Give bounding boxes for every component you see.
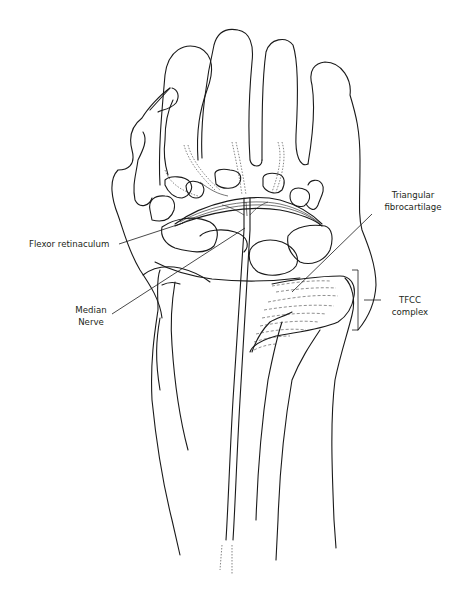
label-median-nerve: Median Nerve	[68, 304, 114, 328]
wrist-anatomy-figure: Flexor retinaculum Median Nerve Triangul…	[0, 0, 469, 598]
flexor-retinaculum-band	[175, 198, 322, 226]
carpal-bones	[143, 169, 332, 282]
label-triangular-line2: fibrocartilage	[370, 201, 456, 213]
label-flexor-retinaculum: Flexor retinaculum	[29, 238, 109, 250]
forearm-bones	[152, 270, 355, 560]
label-tfcc-line1: TFCC	[383, 294, 437, 306]
label-tfcc-complex: TFCC complex	[383, 294, 437, 318]
fingers	[112, 29, 376, 330]
median-nerve	[220, 198, 268, 575]
median-nerve-leader	[112, 228, 245, 314]
triangular-fibrocartilage-leader	[292, 214, 372, 292]
flexor-retinaculum-leader	[119, 223, 183, 244]
label-tfcc-line2: complex	[383, 306, 437, 318]
leader-lines	[112, 214, 381, 330]
label-triangular-line1: Triangular	[370, 189, 456, 201]
label-median-nerve-line2: Nerve	[68, 316, 114, 328]
label-triangular-fibrocartilage: Triangular fibrocartilage	[370, 189, 456, 213]
label-median-nerve-line1: Median	[68, 304, 114, 316]
